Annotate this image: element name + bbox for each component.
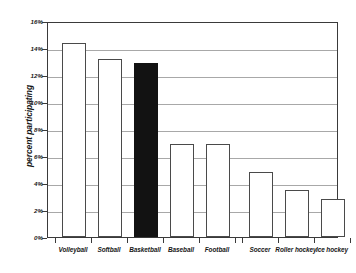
bar-chart-figure: percent participating 0%2%4%6%8%10%12%14… [0,0,356,273]
bar-basketball [134,63,158,237]
y-axis-tick-label: 16% [3,18,43,25]
bar-baseball [170,144,194,237]
y-axis-tick-label: 10% [3,99,43,106]
y-axis-tick-label: 8% [3,126,43,133]
y-axis-tick-label: 0% [3,234,43,241]
x-axis-tick-mark [163,238,164,243]
bar-roller-hockey [285,190,309,237]
x-axis-label-ice-hockey: Ice hockey [302,246,356,253]
y-axis-tick-label: 2% [3,207,43,214]
y-axis-tick-label: 12% [3,72,43,79]
x-axis-tick-mark [314,238,315,243]
gridline [48,77,337,78]
x-axis-tick-mark [199,238,200,243]
bar-football [206,144,230,237]
x-axis-tick-mark [278,238,279,243]
bar-softball [98,59,122,237]
gridline [48,104,337,105]
x-axis-tick-mark [91,238,92,243]
gridline [48,131,337,132]
plot-area [47,22,338,238]
y-axis-tick-label: 4% [3,180,43,187]
y-axis-tick-mark [42,238,47,239]
x-axis-tick-mark [127,238,128,243]
x-axis-tick-mark [350,238,351,243]
gridline [48,50,337,51]
y-axis-tick-label: 14% [3,45,43,52]
bar-soccer [249,172,273,237]
x-axis-tick-mark [55,238,56,243]
x-axis-tick-mark [242,238,243,243]
bar-ice-hockey [321,199,345,237]
x-axis-tick-mark [235,238,236,243]
bar-volleyball [62,43,86,237]
y-axis-tick-label: 6% [3,153,43,160]
